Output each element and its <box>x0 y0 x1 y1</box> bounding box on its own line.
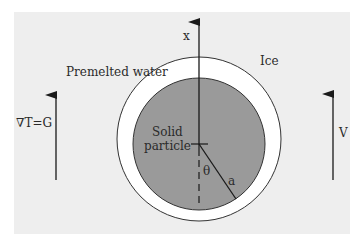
diagram-panel: x θ a Solid particle Premelted water Ice… <box>0 0 362 251</box>
ice-label: Ice <box>260 54 279 68</box>
solid-particle-label-1: Solid <box>152 125 183 139</box>
angle-label: θ <box>203 164 210 178</box>
velocity-label: V <box>338 126 348 140</box>
premelted-water-label: Premelted water <box>66 65 168 79</box>
temperature-gradient-label: ∇T=G <box>16 116 52 130</box>
radius-label: a <box>228 174 235 188</box>
solid-particle-label-2: particle <box>144 139 191 153</box>
x-axis-label: x <box>183 29 190 43</box>
